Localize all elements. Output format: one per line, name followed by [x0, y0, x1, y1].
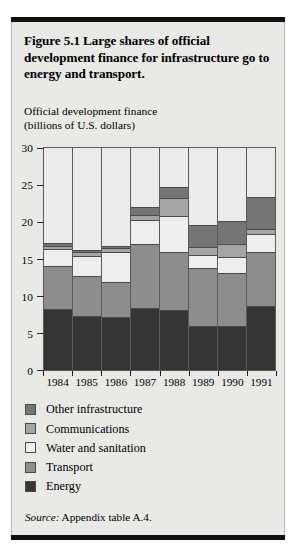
x-tick-label: 1990	[218, 376, 247, 388]
legend-label: Other infrastructure	[46, 403, 142, 415]
source-label: Source:	[25, 511, 59, 523]
y-tick-label: 0	[27, 365, 33, 377]
bar-segment[interactable]	[73, 316, 101, 370]
legend-swatch	[25, 404, 36, 415]
y-tick-mark: 20	[37, 222, 44, 223]
x-axis-labels: 19841985198619871988198919901991	[43, 376, 276, 388]
source-note: Source: Appendix table A.4.	[25, 511, 152, 523]
bar-segment[interactable]	[189, 225, 217, 247]
y-tick-mark: 5	[37, 333, 44, 334]
y-tick-label: 5	[27, 328, 33, 340]
bar-column[interactable]	[102, 148, 131, 370]
source-text: Appendix table A.4.	[62, 511, 152, 523]
x-tick-label: 1984	[43, 376, 72, 388]
bar-segment[interactable]	[73, 256, 101, 276]
x-tick-label: 1986	[101, 376, 130, 388]
bar-segment[interactable]	[218, 244, 246, 257]
legend-item[interactable]: Energy	[25, 477, 265, 496]
y-tick-label: 30	[22, 142, 33, 154]
x-axis: 19841985198619871988198919901991	[43, 371, 276, 393]
y-tick-mark: 25	[37, 185, 44, 186]
figure-page: Figure 5.1 Large shares of official deve…	[0, 0, 296, 554]
bar-segment[interactable]	[218, 273, 246, 326]
legend-label: Energy	[46, 480, 81, 492]
bar-segment[interactable]	[189, 247, 217, 255]
legend-swatch	[25, 442, 36, 453]
bar-segment[interactable]	[247, 234, 275, 252]
legend-item[interactable]: Other infrastructure	[25, 400, 265, 419]
bar-column[interactable]	[73, 148, 102, 370]
y-axis-title-line-2: (billions of U.S. dollars)	[24, 118, 274, 132]
legend-label: Communications	[46, 423, 129, 435]
bar-segment[interactable]	[44, 249, 72, 266]
bar-segment[interactable]	[218, 257, 246, 273]
bar-group	[44, 148, 275, 370]
bar-segment[interactable]	[218, 221, 246, 245]
bar-segment[interactable]	[131, 220, 159, 244]
bar-segment[interactable]	[160, 187, 188, 199]
y-tick-label: 15	[22, 254, 33, 266]
y-axis-title: Official development finance (billions o…	[24, 104, 274, 132]
bar-segment[interactable]	[73, 276, 101, 316]
bar-column[interactable]	[131, 148, 160, 370]
bar-segment[interactable]	[160, 252, 188, 310]
bar-segment[interactable]	[218, 326, 246, 370]
y-tick-mark: 15	[37, 259, 44, 260]
bar-segment[interactable]	[131, 308, 159, 370]
x-tick-label: 1991	[247, 376, 276, 388]
bar-column[interactable]	[247, 148, 275, 370]
bar-segment[interactable]	[44, 266, 72, 309]
x-tick-label: 1989	[189, 376, 218, 388]
top-rule	[11, 17, 285, 22]
y-tick-mark: 10	[37, 296, 44, 297]
bar-segment[interactable]	[189, 255, 217, 268]
legend-swatch	[25, 423, 36, 434]
bar-column[interactable]	[160, 148, 189, 370]
legend-label: Water and sanitation	[46, 442, 146, 454]
legend-label: Transport	[46, 461, 93, 473]
y-tick-mark: 30	[37, 148, 44, 149]
bar-segment[interactable]	[160, 216, 188, 252]
plot-area: 051015202530	[43, 147, 276, 371]
x-tick-label: 1985	[72, 376, 101, 388]
x-tick-label: 1988	[160, 376, 189, 388]
bar-segment[interactable]	[160, 310, 188, 370]
bar-segment[interactable]	[247, 306, 275, 370]
bar-column[interactable]	[218, 148, 247, 370]
figure-title: Figure 5.1 Large shares of official deve…	[24, 33, 276, 83]
bar-segment[interactable]	[44, 309, 72, 370]
bar-segment[interactable]	[131, 207, 159, 215]
bar-segment[interactable]	[131, 244, 159, 308]
y-tick-label: 20	[22, 216, 33, 228]
chart-legend: Other infrastructureCommunicationsWater …	[25, 400, 265, 496]
legend-swatch	[25, 481, 36, 492]
bar-segment[interactable]	[189, 326, 217, 370]
legend-item[interactable]: Water and sanitation	[25, 438, 265, 457]
x-tick-label: 1987	[130, 376, 159, 388]
bar-segment[interactable]	[102, 282, 130, 317]
bar-column[interactable]	[44, 148, 73, 370]
bar-segment[interactable]	[247, 197, 275, 229]
chart: 051015202530 198419851986198719881989199…	[24, 143, 276, 375]
bottom-rule	[11, 535, 285, 540]
bar-segment[interactable]	[189, 268, 217, 326]
y-tick-label: 10	[22, 291, 33, 303]
y-tick-label: 25	[22, 179, 33, 191]
y-axis-title-line-1: Official development finance	[24, 104, 274, 118]
legend-item[interactable]: Communications	[25, 419, 265, 438]
bar-segment[interactable]	[247, 252, 275, 305]
bar-segment[interactable]	[102, 252, 130, 282]
bar-column[interactable]	[189, 148, 218, 370]
bar-segment[interactable]	[102, 317, 130, 370]
x-tick-mark	[276, 371, 277, 376]
legend-item[interactable]: Transport	[25, 458, 265, 477]
bar-segment[interactable]	[160, 198, 188, 216]
legend-swatch	[25, 462, 36, 473]
